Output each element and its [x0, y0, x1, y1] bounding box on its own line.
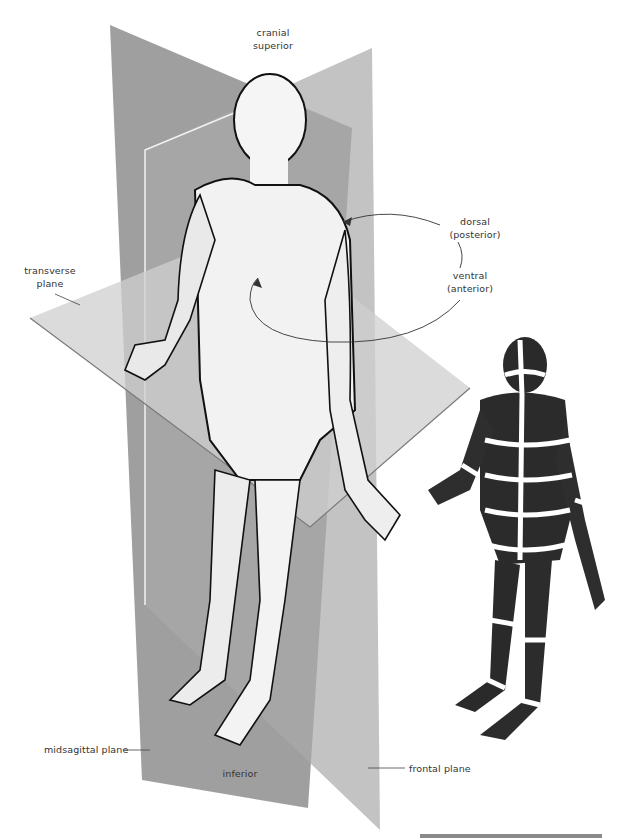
dorsal-label: dorsal [445, 216, 505, 228]
frontal-plane-label: frontal plane [409, 763, 471, 775]
anatomy-diagram: cranial superior dorsal (posterior) vent… [0, 0, 637, 840]
posterior-label: (posterior) [445, 229, 505, 241]
transverse-plane-label: transverse [20, 265, 80, 277]
inferior-label: inferior [210, 768, 270, 780]
ventral-label: ventral [440, 270, 500, 282]
bottom-rule [420, 834, 602, 838]
anterior-label: (anterior) [440, 283, 500, 295]
planes-illustration [0, 0, 637, 840]
superior-label: superior [248, 40, 298, 52]
cranial-label: cranial [248, 27, 298, 39]
transverse-plane-label-2: plane [20, 278, 80, 290]
midsagittal-plane-label: midsagittal plane [44, 744, 128, 756]
